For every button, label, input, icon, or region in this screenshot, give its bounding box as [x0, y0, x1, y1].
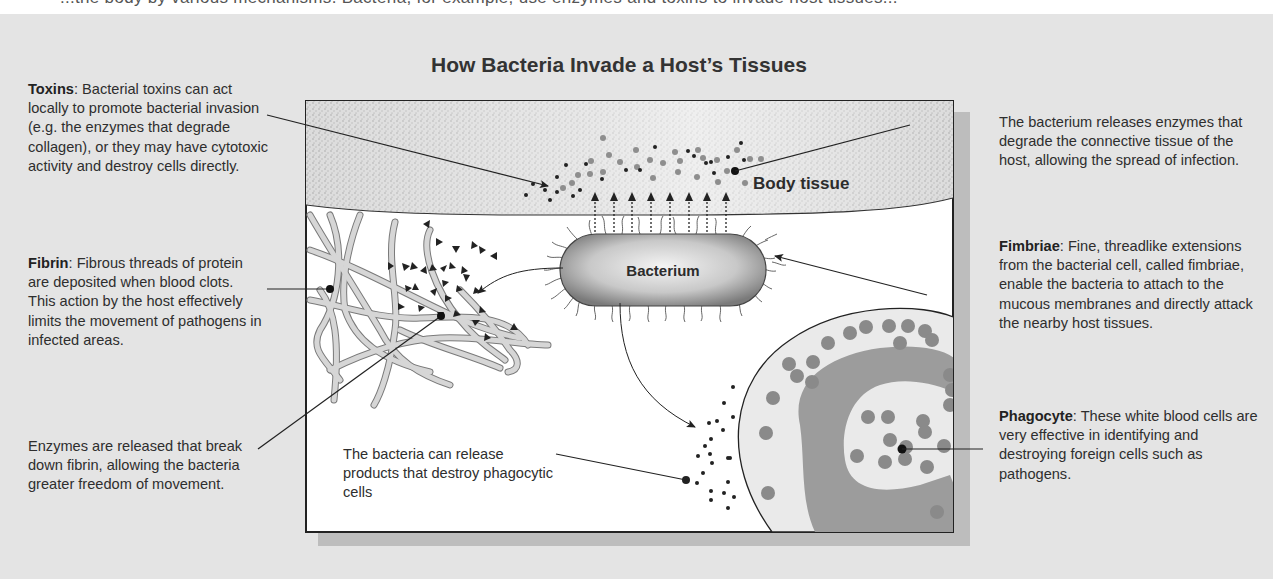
body-tissue-label: Body tissue — [753, 174, 849, 193]
callout-toxins: Toxins: Bacterial toxins can act locally… — [28, 80, 273, 176]
callout-toxins-term: Toxins — [28, 81, 74, 97]
callout-phagocyte-term: Phagocyte — [999, 408, 1073, 424]
callout-enzymes-fibrin: Enzymes are released that break down fib… — [28, 437, 258, 495]
bacterium-label: Bacterium — [626, 262, 699, 279]
phagocyte-products-caption: The bacteria can release products that d… — [343, 445, 563, 503]
callout-phagocyte: Phagocyte: These white blood cells are v… — [999, 407, 1269, 484]
enzyme-pointer-dot — [437, 312, 445, 320]
callout-fibrin-term: Fibrin — [28, 255, 69, 271]
callout-fimbriae-term: Fimbriae — [999, 238, 1060, 254]
fibrin-pointer-dot — [326, 285, 334, 293]
callout-fimbriae: Fimbriae: Fine, threadlike extensions fr… — [999, 237, 1269, 333]
callout-fibrin: Fibrin: Fibrous threads of protein are d… — [28, 254, 263, 350]
callout-enzymes-tissue: The bacterium releases enzymes that degr… — [999, 113, 1269, 171]
